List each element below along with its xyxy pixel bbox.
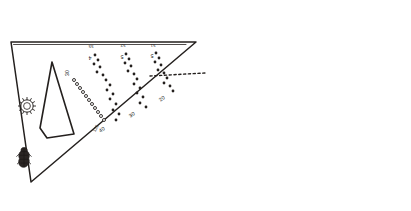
- left-row-label-2: 51: [150, 43, 155, 48]
- left-point-row-a: [73, 79, 106, 122]
- left-row-label-1: 52: [120, 43, 125, 48]
- left-edge-labels: 40 30 20: [98, 94, 166, 133]
- left-row-label-3: 4: [89, 55, 92, 61]
- left-row-label-6: 30: [64, 70, 70, 76]
- figure-svg: 55 52 51 4 5 5 30 125 40 30 20: [0, 0, 411, 211]
- left-row-label-4: 5: [121, 54, 124, 60]
- left-row-label-5: 5: [151, 53, 154, 59]
- diagram-canvas: Two mirrored right-triangle field plan s…: [0, 0, 411, 211]
- left-point-row-d: [154, 52, 175, 93]
- left-edge-label-20: 20: [158, 94, 166, 102]
- left-triangle-border: [11, 42, 196, 182]
- left-edge-label-30: 30: [128, 110, 136, 118]
- left-triangle-plan: 55 52 51 4 5 5 30 125 40 30 20: [11, 42, 205, 182]
- left-row-label-0: 55: [88, 44, 93, 49]
